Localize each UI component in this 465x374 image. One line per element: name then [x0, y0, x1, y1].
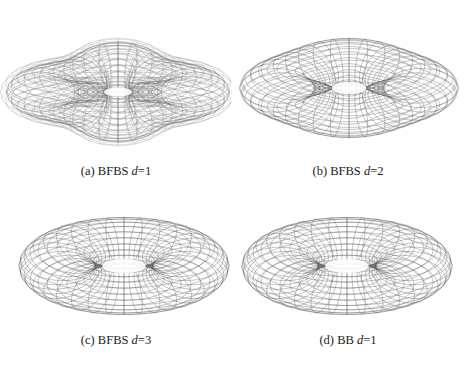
- panel-a: (a) BFBS d=1: [0, 0, 232, 187]
- panel-c: (c) BFBS d=3: [0, 187, 232, 374]
- caption-method: BFBS: [98, 164, 129, 178]
- caption-eq: =3: [138, 333, 151, 347]
- caption-label: (a): [81, 164, 95, 178]
- caption-eq: =2: [370, 164, 383, 178]
- caption-label: (d): [319, 333, 334, 347]
- torus-wireframe-d: [232, 187, 465, 347]
- panel-d: (d) BB d=1: [232, 187, 464, 374]
- caption-c: (c) BFBS d=3: [0, 333, 232, 348]
- caption-eq: =1: [138, 164, 151, 178]
- caption-label: (c): [81, 333, 95, 347]
- panel-b: (b) BFBS d=2: [232, 0, 464, 187]
- torus-wireframe-b: [232, 0, 465, 170]
- caption-method: BFBS: [330, 164, 361, 178]
- caption-a: (a) BFBS d=1: [0, 164, 232, 179]
- caption-d: (d) BB d=1: [232, 333, 464, 348]
- caption-method: BB: [337, 333, 354, 347]
- torus-wireframe-c: [0, 187, 232, 347]
- caption-eq: =1: [363, 333, 376, 347]
- caption-b: (b) BFBS d=2: [232, 164, 464, 179]
- caption-method: BFBS: [98, 333, 129, 347]
- caption-label: (b): [313, 164, 328, 178]
- torus-wireframe-a: [0, 0, 232, 170]
